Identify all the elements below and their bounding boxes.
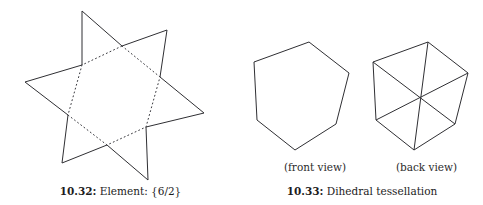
hexagon-front-outline-path xyxy=(254,42,349,150)
hexagon-front-view-art xyxy=(250,0,360,160)
hexagon-back-svg xyxy=(369,0,479,160)
figure-10-33-caption: 10.33: Dihedral tessellation xyxy=(241,185,483,198)
hexagram-svg xyxy=(0,0,241,190)
figure-10-33-number: 10.33: xyxy=(287,185,324,197)
view-labels: (front view) (back view) xyxy=(241,160,483,174)
figure-10-32-number: 10.32: xyxy=(60,185,97,197)
hexagram-star-polygon-art xyxy=(0,0,241,190)
figure-10-33: (front view) (back view) 10.33: Dihedral… xyxy=(241,0,483,205)
hexagon-back-view-art xyxy=(369,0,479,160)
hexagon-back-diagonal-2 xyxy=(376,73,468,120)
figure-10-33-title: Dihedral tessellation xyxy=(327,185,438,197)
star-outline-path xyxy=(25,11,204,180)
front-view-label: (front view) xyxy=(255,160,375,174)
hexagon-front-svg xyxy=(250,0,360,160)
back-view-label: (back view) xyxy=(374,160,479,174)
figure-10-32: 10.32: Element: {6/2} xyxy=(0,0,241,205)
hexagon-back-diagonal-1 xyxy=(414,42,428,150)
figure-10-32-title: Element: {6/2} xyxy=(100,185,182,197)
figure-page: 10.32: Element: {6/2} (front view) (back… xyxy=(0,0,483,205)
figure-10-32-caption: 10.32: Element: {6/2} xyxy=(0,185,241,198)
